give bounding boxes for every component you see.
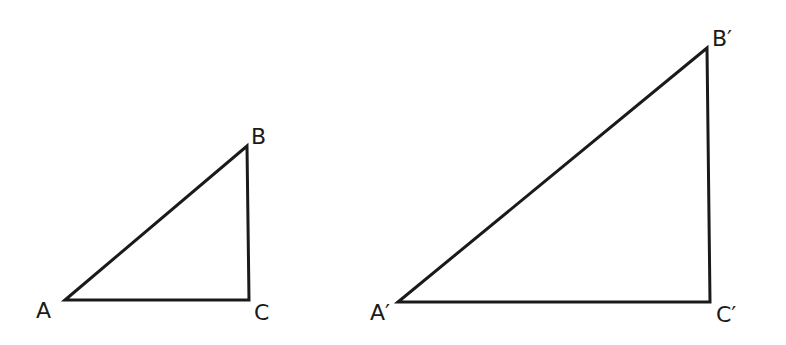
triangle-a-prime-b-prime-c-prime: A′ B′ C′ [370, 26, 736, 327]
triangle-a-prime-b-prime-c-prime-outline [398, 48, 710, 302]
triangle-abc: A B C [36, 124, 269, 325]
vertex-label-c-prime: C′ [716, 302, 736, 327]
diagram-canvas: A B C A′ B′ C′ [0, 0, 786, 345]
similar-triangles-figure: A B C A′ B′ C′ [0, 0, 786, 345]
vertex-label-c: C [254, 300, 269, 325]
vertex-label-b-prime: B′ [712, 26, 732, 51]
vertex-label-a-prime: A′ [370, 300, 390, 325]
vertex-label-b: B [251, 124, 266, 149]
vertex-label-a: A [36, 298, 51, 323]
triangle-abc-outline [65, 146, 249, 300]
